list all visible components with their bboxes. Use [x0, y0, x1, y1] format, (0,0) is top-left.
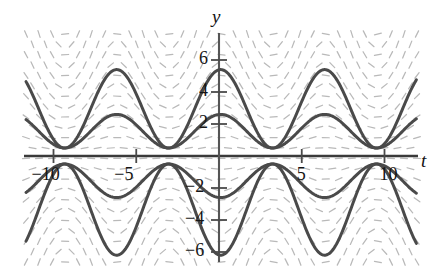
slope-dash	[330, 84, 335, 88]
slope-dash	[108, 229, 114, 233]
slope-dash	[368, 127, 375, 129]
slope-dash	[362, 94, 367, 99]
slope-dash	[154, 198, 160, 202]
slope-dash	[351, 51, 354, 58]
slope-dash	[225, 126, 232, 128]
slope-dash	[252, 83, 256, 89]
slope-dash	[81, 168, 88, 170]
slope-dash	[381, 105, 387, 108]
slope-dash	[409, 248, 412, 254]
slope-dash	[187, 62, 190, 68]
slope-dash	[240, 248, 243, 254]
slope-dash	[330, 63, 335, 68]
slope-dash	[50, 218, 55, 223]
slope-dash	[23, 137, 30, 139]
slope-dash	[212, 126, 219, 128]
slope-dash	[146, 168, 153, 170]
slope-dash	[362, 115, 368, 119]
slope-dash	[270, 96, 277, 97]
slope-dash	[310, 94, 315, 99]
slope-dash	[194, 93, 198, 99]
slope-dash	[180, 73, 184, 79]
slope-dash	[166, 262, 173, 263]
slope-dash	[187, 83, 191, 89]
slope-dash	[89, 197, 94, 202]
slope-dash	[135, 62, 138, 68]
slope-dash	[322, 241, 329, 242]
slope-dash	[390, 31, 393, 37]
slope-dash	[278, 249, 283, 254]
slope-dash	[77, 259, 80, 265]
slope-dash	[297, 114, 302, 119]
slope-dash	[285, 238, 289, 244]
slope-dash	[108, 209, 114, 212]
slope-dash	[69, 249, 74, 254]
slope-dash	[395, 207, 399, 213]
slope-dash	[270, 261, 277, 262]
slope-dash	[415, 218, 420, 223]
slope-dash	[121, 84, 127, 88]
slope-dash	[252, 207, 256, 212]
slope-dash	[212, 168, 219, 169]
slope-dash	[246, 218, 250, 224]
slope-dash	[141, 218, 145, 224]
slope-dash	[37, 218, 41, 224]
slope-dash	[396, 228, 399, 234]
slope-dash	[290, 147, 297, 148]
slope-dash	[83, 41, 85, 48]
slope-dash	[68, 188, 75, 190]
slope-dash	[409, 41, 412, 48]
slope-dash	[403, 51, 406, 58]
slope-dash	[277, 126, 284, 128]
slope-dash	[76, 52, 79, 58]
slope-dash	[173, 249, 178, 254]
slope-dash	[121, 208, 127, 211]
slope-dash	[329, 168, 336, 169]
slope-dash	[303, 147, 310, 148]
slope-dash	[238, 147, 245, 148]
slope-dash	[225, 84, 231, 88]
slope-dash	[264, 189, 271, 191]
slope-dash	[154, 238, 158, 244]
slope-dash	[374, 75, 381, 76]
slope-dash	[252, 104, 257, 109]
slope-dash	[388, 115, 394, 119]
slope-dash	[310, 218, 315, 223]
slope-dash	[129, 52, 132, 58]
slope-dash	[121, 229, 127, 233]
slope-dash	[50, 94, 55, 99]
x-tick-label: 10	[380, 164, 398, 185]
slope-dash	[135, 83, 139, 89]
slope-dash	[155, 52, 158, 58]
slope-dash	[277, 188, 284, 190]
slope-dash	[44, 83, 48, 89]
slope-dash	[129, 31, 132, 37]
slope-dash	[374, 241, 381, 242]
slope-dash	[270, 241, 277, 242]
slope-dash	[298, 51, 301, 58]
slope-dash	[264, 84, 270, 88]
slope-dash	[342, 168, 349, 170]
slope-dash	[363, 238, 367, 244]
slope-dash	[142, 51, 145, 58]
x-tick-label: 5	[297, 164, 306, 185]
slope-dash	[166, 75, 173, 76]
slope-dash	[103, 259, 106, 265]
slope-dash	[207, 31, 210, 37]
slope-dash	[121, 63, 126, 68]
slope-dash	[329, 105, 335, 108]
slope-dash	[311, 259, 314, 265]
slope-dash	[251, 147, 258, 148]
slope-dash	[160, 249, 165, 253]
slope-dash	[381, 126, 388, 128]
slope-dash	[233, 73, 237, 79]
slope-dash	[246, 238, 249, 244]
slope-dash	[329, 126, 336, 128]
slope-dash	[304, 104, 309, 109]
slope-dash	[148, 83, 152, 89]
slope-dash	[148, 228, 152, 234]
slope-dash	[89, 93, 93, 99]
slope-dash	[212, 42, 217, 47]
slope-dash	[343, 207, 347, 213]
slope-dash	[160, 209, 166, 212]
